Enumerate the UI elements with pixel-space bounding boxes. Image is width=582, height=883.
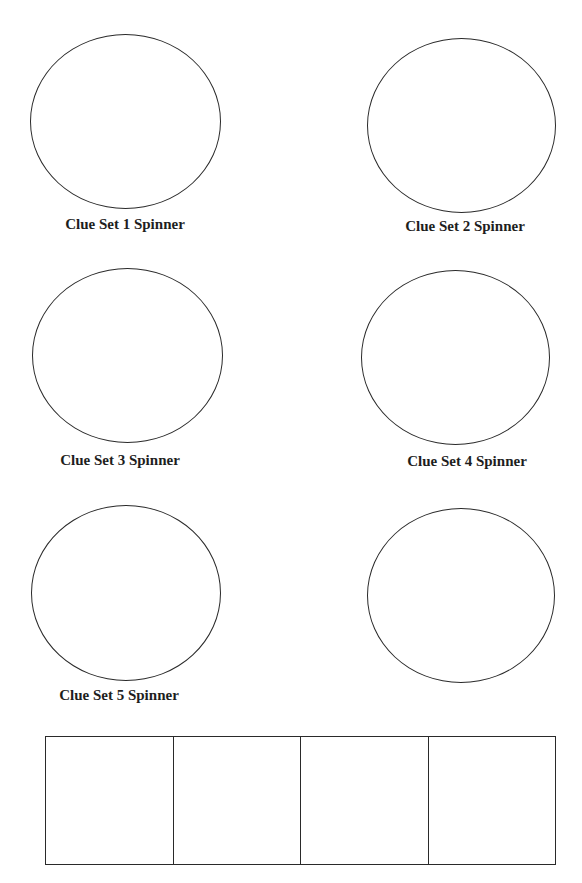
clue-set-4-spinner [361,270,550,445]
answer-box-4 [429,737,556,864]
clue-set-1-spinner [30,34,221,209]
clue-set-5-spinner-label: Clue Set 5 Spinner [19,686,219,704]
answer-box-grid [45,736,556,865]
clue-set-1-spinner-label: Clue Set 1 Spinner [25,215,225,233]
answer-box-3 [301,737,429,864]
clue-set-2-spinner [367,38,556,213]
clue-set-2-spinner-label: Clue Set 2 Spinner [365,217,565,235]
clue-set-3-spinner [32,268,223,443]
answer-box-1 [46,737,174,864]
answer-box-2 [174,737,302,864]
spinner-6-unlabeled [367,508,555,683]
clue-set-4-spinner-label: Clue Set 4 Spinner [367,452,567,470]
clue-set-3-spinner-label: Clue Set 3 Spinner [20,451,220,469]
clue-set-5-spinner [31,505,221,681]
